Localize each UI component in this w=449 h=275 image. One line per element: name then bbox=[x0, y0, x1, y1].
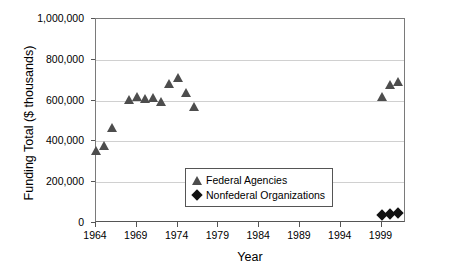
x-tick-mark bbox=[136, 222, 137, 227]
y-tick-label: 600,000 bbox=[46, 94, 84, 105]
y-axis: 0200,000400,000600,000800,0001,000,000 bbox=[0, 0, 92, 275]
x-tick-label: 1974 bbox=[165, 230, 188, 241]
triangle-marker-icon bbox=[191, 174, 203, 186]
y-tick-mark bbox=[91, 181, 95, 182]
legend-item-label: Federal Agencies bbox=[206, 174, 287, 186]
y-tick-label: 800,000 bbox=[46, 54, 84, 65]
data-point-marker bbox=[173, 73, 183, 82]
y-tick-mark bbox=[91, 18, 95, 19]
x-tick-mark bbox=[258, 222, 259, 227]
y-tick-mark bbox=[91, 100, 95, 101]
funding-scatter-chart: 0200,000400,000600,000800,0001,000,000 F… bbox=[0, 0, 449, 275]
data-point-marker bbox=[99, 141, 109, 150]
y-tick-label: 400,000 bbox=[46, 135, 84, 146]
x-tick-mark bbox=[299, 222, 300, 227]
x-tick-mark bbox=[381, 222, 382, 227]
y-tick-label: 200,000 bbox=[46, 176, 84, 187]
x-tick-label: 1969 bbox=[124, 230, 147, 241]
x-tick-label: 1999 bbox=[369, 230, 392, 241]
data-point-marker bbox=[392, 208, 403, 219]
gridline bbox=[96, 141, 404, 142]
x-tick-mark bbox=[95, 222, 96, 227]
y-tick-mark bbox=[91, 140, 95, 141]
data-point-marker bbox=[181, 88, 191, 97]
data-point-marker bbox=[393, 77, 403, 86]
y-tick-mark bbox=[91, 59, 95, 60]
gridline bbox=[96, 60, 404, 61]
x-tick-label: 1964 bbox=[83, 230, 106, 241]
legend-item-label: Nonfederal Organizations bbox=[206, 189, 325, 201]
x-tick-label: 1984 bbox=[246, 230, 269, 241]
x-tick-mark bbox=[340, 222, 341, 227]
x-tick-label: 1979 bbox=[206, 230, 229, 241]
diamond-marker-icon bbox=[191, 189, 203, 201]
x-tick-label: 1994 bbox=[328, 230, 351, 241]
chart-legend: Federal AgenciesNonfederal Organizations bbox=[185, 168, 333, 207]
x-axis-title: Year bbox=[95, 250, 405, 264]
x-tick-mark bbox=[177, 222, 178, 227]
y-tick-label: 0 bbox=[78, 217, 84, 228]
x-tick-label: 1989 bbox=[287, 230, 310, 241]
data-point-marker bbox=[156, 97, 166, 106]
data-point-marker bbox=[189, 102, 199, 111]
legend-item: Nonfederal Organizations bbox=[191, 187, 327, 202]
x-tick-mark bbox=[217, 222, 218, 227]
y-axis-title: Funding Total ($ thousands) bbox=[22, 7, 36, 239]
data-point-marker bbox=[377, 92, 387, 101]
y-tick-label: 1,000,000 bbox=[37, 13, 84, 24]
legend-item: Federal Agencies bbox=[191, 172, 327, 187]
data-point-marker bbox=[107, 123, 117, 132]
